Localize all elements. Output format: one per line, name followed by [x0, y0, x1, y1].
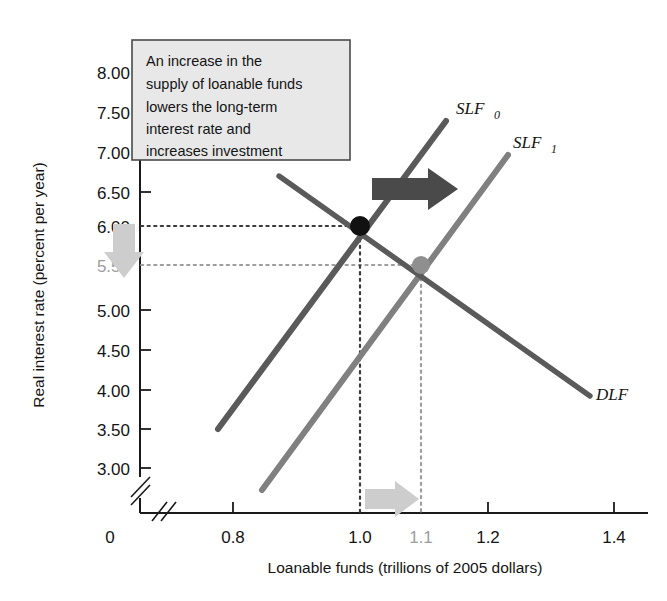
y-tick-label: 7.50	[97, 104, 130, 123]
y-tick-label: 4.00	[97, 382, 130, 401]
y-tick-4.00: 4.00	[97, 382, 151, 401]
curve-label-dlf: DLF	[595, 385, 629, 404]
initial-equilibrium-dot	[350, 216, 370, 236]
callout-line: interest rate and	[146, 121, 251, 137]
y-tick-label: 4.50	[97, 342, 130, 361]
curve-label-subscript: 0	[494, 108, 500, 122]
x-tick-1.4: 1.4	[602, 502, 626, 547]
callout-line: supply of loanable funds	[146, 76, 302, 92]
y-tick-6.50: 6.50	[97, 184, 151, 203]
y-tick-label: 3.00	[97, 460, 130, 479]
callout-line: An increase in the	[146, 53, 262, 69]
y-tick-3.00: 3.00	[97, 460, 151, 479]
y-tick-3.50: 3.50	[97, 421, 151, 440]
x-tick-label: 1.2	[476, 528, 500, 547]
y-tick-label: 8.00	[97, 64, 130, 83]
y-axis-title: Real interest rate (percent per year)	[30, 162, 47, 408]
y-tick-label: 7.00	[97, 144, 130, 163]
curve-label-text: DLF	[595, 385, 629, 404]
curves-group	[218, 121, 590, 490]
x-tick-label: 1.0	[348, 528, 372, 547]
curve-label-subscript: 1	[551, 142, 557, 156]
origin-label: 0	[105, 528, 114, 547]
loanable-funds-chart: 8.00 7.50 7.00 6.50 6.00 5.50 5.	[0, 0, 667, 601]
curve-label-text: SLF	[513, 133, 542, 152]
new-equilibrium-dot	[412, 256, 430, 274]
curve-slf0	[218, 121, 446, 429]
x-tick-1.2: 1.2	[476, 502, 500, 547]
curve-label-text: SLF	[456, 99, 485, 118]
x-axis-title: Loanable funds (trillions of 2005 dollar…	[268, 559, 543, 576]
y-tick-label: 3.50	[97, 421, 130, 440]
curve-label-slf1: SLF 1	[513, 133, 557, 156]
x-axis-break-icon	[152, 502, 176, 521]
x-tick-1.1: 1.1	[409, 528, 433, 547]
y-tick-label: 6.50	[97, 184, 130, 203]
curve-label-slf0: SLF 0	[456, 99, 500, 122]
callout-line: increases investment	[146, 143, 282, 159]
y-tick-5.00: 5.00	[97, 302, 151, 321]
chart-figure: 8.00 7.50 7.00 6.50 6.00 5.50 5.	[0, 0, 667, 601]
y-tick-4.50: 4.50	[97, 342, 151, 361]
x-tick-label: 1.4	[602, 528, 626, 547]
x-tick-1.0: 1.0	[348, 528, 372, 547]
callout-line: lowers the long-term	[146, 99, 277, 115]
y-tick-label: 5.00	[97, 302, 130, 321]
guide-lines-group	[141, 226, 422, 512]
x-tick-label: 1.1	[409, 528, 433, 547]
funds-increase-arrow-right-icon	[365, 481, 419, 517]
x-tick-label: 0.8	[221, 528, 245, 547]
x-tick-0.8: 0.8	[221, 502, 245, 547]
explanation-callout: An increase in the supply of loanable fu…	[132, 40, 350, 160]
